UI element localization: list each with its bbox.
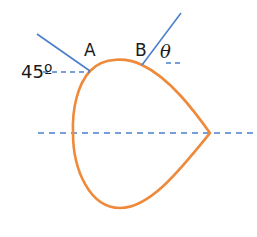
label-angle-45: 45º	[21, 61, 52, 82]
drop-shape-outline	[73, 60, 210, 208]
prism-diagram: A B 45º θ	[0, 0, 257, 237]
label-point-b: B	[135, 40, 147, 60]
label-angle-theta: θ	[160, 41, 171, 62]
label-point-a: A	[84, 40, 96, 60]
